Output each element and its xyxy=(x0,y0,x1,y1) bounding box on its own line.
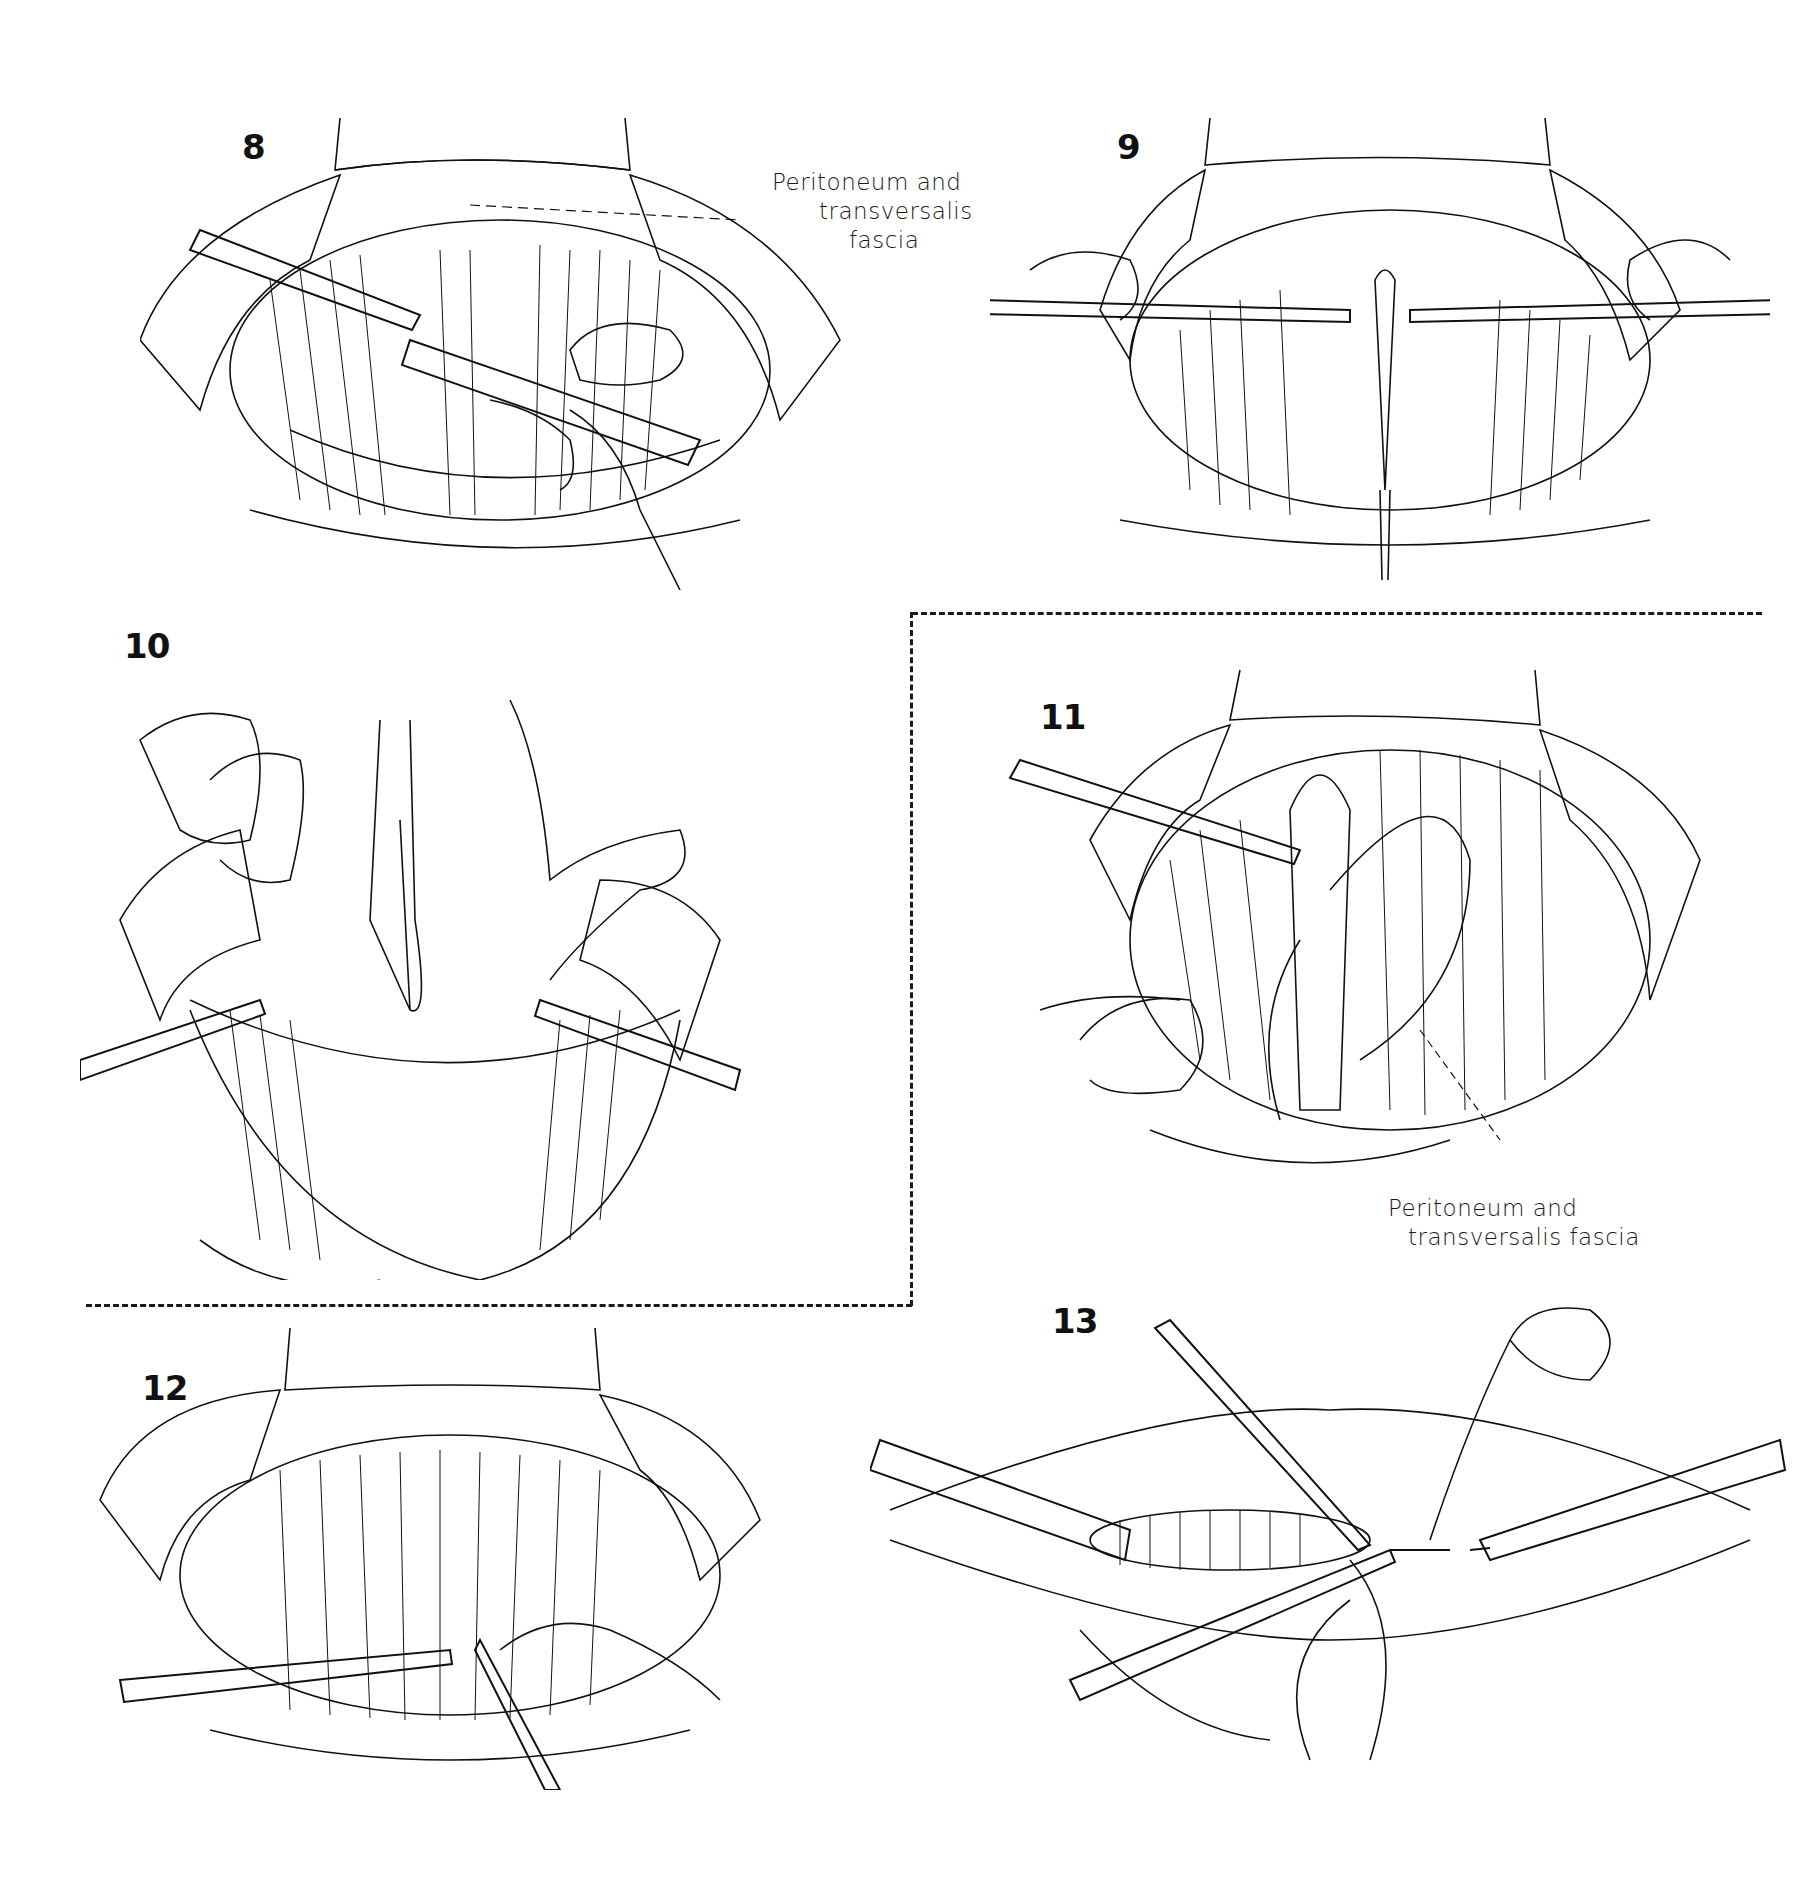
dashed-box-bottom xyxy=(86,1304,912,1307)
dashed-box-left xyxy=(910,612,913,1306)
label-line: transversalis fascia xyxy=(1388,1223,1640,1252)
figure-number-10: 10 xyxy=(124,626,169,666)
illustration-figure-9 xyxy=(990,110,1770,590)
dashed-box-top xyxy=(912,612,1762,615)
illustration-figure-12 xyxy=(80,1320,800,1790)
illustration-figure-10 xyxy=(80,680,800,1280)
illustration-figure-13 xyxy=(870,1300,1790,1770)
illustration-figure-11 xyxy=(1000,660,1740,1220)
illustration-figure-8 xyxy=(140,110,860,590)
